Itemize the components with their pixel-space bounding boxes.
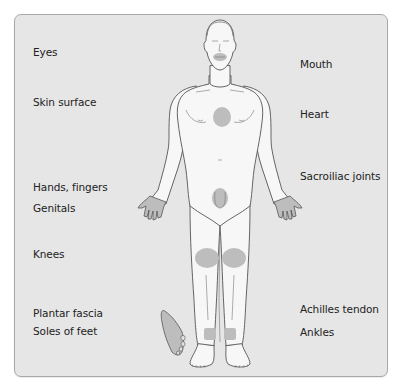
left-knee-highlight bbox=[195, 248, 219, 268]
left-ankle-highlight bbox=[204, 328, 216, 340]
toe-2 bbox=[181, 342, 185, 347]
heart-highlight bbox=[213, 107, 231, 127]
right-ankle-highlight bbox=[224, 328, 236, 340]
toe-3 bbox=[179, 347, 183, 351]
toe-1 bbox=[181, 335, 185, 340]
genitals-highlight bbox=[212, 188, 228, 208]
toe-4 bbox=[176, 351, 179, 355]
right-foot bbox=[226, 344, 250, 367]
left-leg bbox=[190, 205, 220, 346]
left-foot bbox=[190, 344, 214, 367]
human-body-figure bbox=[0, 0, 406, 387]
right-knee-highlight bbox=[222, 248, 246, 268]
right-leg bbox=[220, 205, 250, 346]
